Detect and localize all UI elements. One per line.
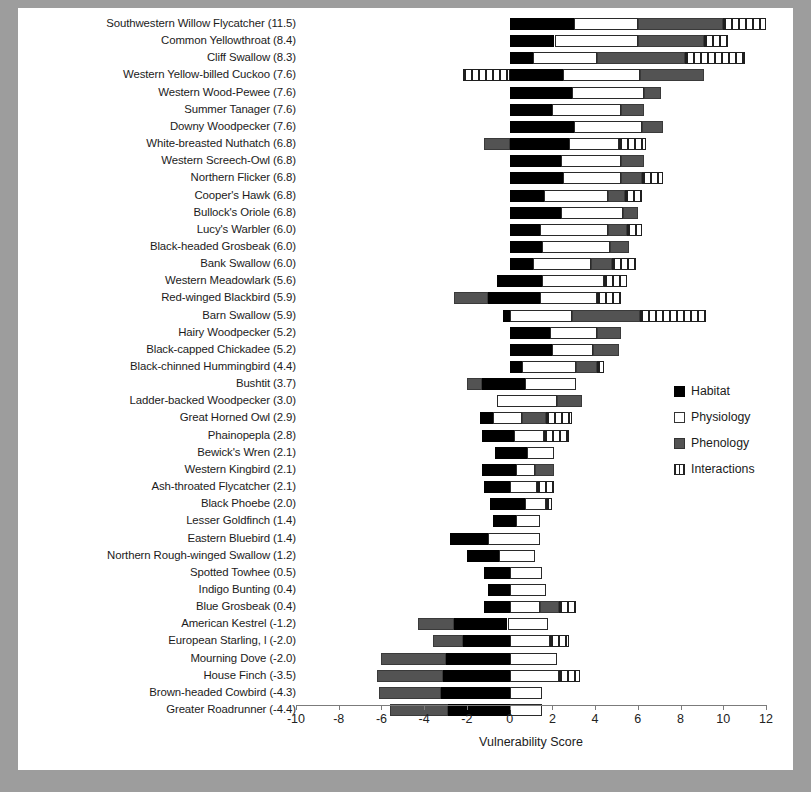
bar-segment-phenology	[638, 35, 704, 47]
category-label: Barn Swallow (5.9)	[18, 309, 296, 321]
bar-row	[296, 104, 766, 116]
legend-item-interactions[interactable]: Interactions	[674, 456, 794, 482]
bar-segment-physiology	[510, 567, 542, 579]
category-label: Southwestern Willow Flycatcher (11.5)	[18, 17, 296, 29]
bar-segment-habitat	[482, 464, 516, 476]
bar-segment-habitat	[482, 378, 525, 390]
bar-segment-physiology	[574, 18, 638, 30]
bar-row	[296, 327, 766, 339]
bar-segment-physiology	[525, 498, 546, 510]
x-tick	[595, 705, 596, 710]
plot-area	[296, 8, 766, 705]
legend-item-habitat[interactable]: Habitat	[674, 378, 794, 404]
bar-segment-physiology	[540, 292, 598, 304]
bar-row	[296, 344, 766, 356]
bar-segment-physiology	[510, 584, 546, 596]
bar-segment-physiology	[488, 533, 539, 545]
bar-segment-habitat	[510, 241, 542, 253]
bar-segment-physiology	[533, 258, 591, 270]
bar-segment-phenology	[535, 464, 554, 476]
category-label: Greater Roadrunner (-4.4)	[18, 703, 296, 715]
x-tick-label: -10	[276, 712, 316, 726]
bar-segment-phenology	[591, 258, 612, 270]
legend-item-physiology[interactable]: Physiology	[674, 404, 794, 430]
bar-segment-habitat	[510, 121, 574, 133]
x-tick-label: 8	[661, 712, 701, 726]
bar-segment-physiology	[522, 361, 575, 373]
category-label: Great Horned Owl (2.9)	[18, 411, 296, 423]
legend-swatch-icon	[674, 438, 685, 449]
bar-segment-phenology	[540, 601, 559, 613]
bar-segment-interactions	[597, 292, 621, 304]
bar-segment-physiology	[555, 35, 638, 47]
bar-segment-habitat	[443, 670, 509, 682]
category-label: European Starling, l (-2.0)	[18, 634, 296, 646]
category-label: Mourning Dove (-2.0)	[18, 652, 296, 664]
bar-segment-phenology	[640, 69, 704, 81]
bar-segment-physiology	[525, 378, 576, 390]
bar-segment-phenology	[608, 190, 625, 202]
bar-segment-interactions	[612, 258, 636, 270]
bar-segment-physiology	[574, 121, 642, 133]
bar-row	[296, 567, 766, 579]
x-tick	[339, 705, 340, 710]
bar-segment-habitat	[493, 515, 517, 527]
bar-segment-physiology	[542, 275, 604, 287]
bar-segment-phenology	[467, 378, 482, 390]
bar-segment-interactions	[704, 35, 728, 47]
bar-segment-physiology	[527, 447, 555, 459]
bar-segment-physiology	[510, 670, 559, 682]
legend-swatch-icon	[674, 386, 685, 397]
legend-item-phenology[interactable]: Phenology	[674, 430, 794, 456]
bar-segment-habitat	[510, 138, 570, 150]
bar-segment-habitat	[484, 567, 510, 579]
bar-segment-physiology	[542, 241, 610, 253]
bar-segment-phenology	[572, 310, 640, 322]
category-label: Summer Tanager (7.6)	[18, 103, 296, 115]
bar-segment-phenology	[522, 412, 546, 424]
category-label: Cliff Swallow (8.3)	[18, 51, 296, 63]
x-tick	[296, 705, 297, 710]
bar-segment-physiology	[563, 69, 640, 81]
bar-segment-phenology	[638, 18, 723, 30]
x-tick	[381, 705, 382, 710]
x-tick	[467, 705, 468, 710]
bar-segment-habitat	[482, 430, 514, 442]
bar-segment-physiology	[510, 687, 542, 699]
bar-segment-habitat	[510, 327, 551, 339]
bar-segment-phenology	[557, 395, 583, 407]
legend-label: Interactions	[691, 462, 755, 476]
x-tick-label: 4	[575, 712, 615, 726]
bar-row	[296, 52, 766, 64]
category-label: American Kestrel (-1.2)	[18, 617, 296, 629]
bar-segment-physiology	[510, 635, 551, 647]
category-label: Bullock's Oriole (6.8)	[18, 206, 296, 218]
bar-segment-interactions	[550, 635, 569, 647]
x-tick	[766, 705, 767, 710]
bar-segment-phenology	[576, 361, 597, 373]
bar-row	[296, 550, 766, 562]
x-tick-label: -4	[404, 712, 444, 726]
bar-segment-physiology	[552, 344, 593, 356]
category-label: Bushtit (3.7)	[18, 377, 296, 389]
bar-segment-phenology	[454, 292, 488, 304]
category-label: Western Wood-Pewee (7.6)	[18, 86, 296, 98]
bar-segment-habitat	[480, 412, 493, 424]
bar-row	[296, 498, 766, 510]
bar-segment-habitat	[488, 292, 539, 304]
bar-segment-interactions	[559, 670, 580, 682]
bar-segment-phenology	[608, 224, 627, 236]
x-tick-label: 2	[532, 712, 572, 726]
x-tick	[638, 705, 639, 710]
bar-segment-habitat	[484, 601, 510, 613]
category-label: Blue Grosbeak (0.4)	[18, 600, 296, 612]
bar-segment-physiology	[569, 138, 618, 150]
bar-segment-habitat	[467, 550, 499, 562]
category-label: Northern Rough-winged Swallow (1.2)	[18, 549, 296, 561]
bar-segment-habitat	[495, 447, 527, 459]
bar-segment-habitat	[510, 190, 544, 202]
bar-row	[296, 481, 766, 493]
bar-segment-interactions	[546, 412, 572, 424]
category-label: Western Yellow-billed Cuckoo (7.6)	[18, 68, 296, 80]
category-label: Lesser Goldfinch (1.4)	[18, 514, 296, 526]
